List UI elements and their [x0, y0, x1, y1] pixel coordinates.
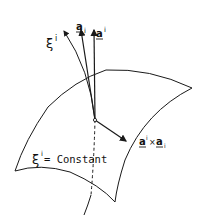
a-sup-i-base: a: [96, 28, 103, 39]
coordinate-surface: [15, 70, 192, 202]
coordinate-surface-diagram: ξ i a i a i a i × a i ξ i = Constant: [0, 0, 203, 219]
a-sub-i-base: a: [76, 21, 83, 32]
label-contravariant-base: a i: [96, 26, 106, 39]
label-surface: ξ i = Constant: [32, 150, 107, 167]
surface-constant-text: = Constant: [44, 153, 107, 165]
cross-left-superscript: i: [146, 134, 148, 141]
cross-operator: ×: [149, 138, 156, 147]
xi-superscript: i: [55, 34, 57, 43]
xi-coordinate-curve: [64, 31, 95, 215]
xi-curve-lower: [84, 195, 91, 215]
label-xi-curve: ξ i: [46, 34, 57, 51]
cross-product-vector: [95, 120, 126, 141]
surface-xi-symbol: ξ: [32, 152, 39, 167]
xi-curve-upper: [64, 31, 95, 120]
surface-bottom-edge: [15, 167, 115, 202]
xi-symbol: ξ: [46, 36, 53, 51]
cross-right-subscript: i: [164, 142, 166, 149]
cross-right-base: a: [156, 136, 163, 147]
contravariant-base-vector: [94, 30, 95, 120]
origin-point: [93, 118, 96, 121]
cross-left-base: a: [139, 136, 146, 147]
surface-xi-superscript: i: [41, 150, 43, 158]
a-sup-i-superscript: i: [104, 26, 106, 34]
a-sub-i-subscript: i: [84, 27, 86, 35]
label-cross-product: a i × a i: [139, 134, 166, 149]
